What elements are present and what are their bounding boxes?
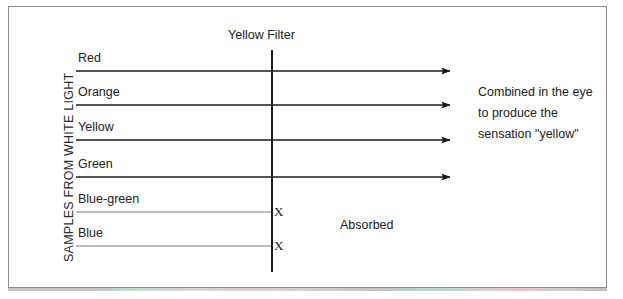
blocked-marker-blue: X [274, 239, 283, 252]
ray-label-red: Red [78, 51, 101, 65]
ray-label-yellow: Yellow [78, 120, 114, 134]
absorbed-label: Absorbed [340, 218, 394, 232]
blocked-marker-blue-green: X [274, 205, 283, 218]
figure-canvas: Yellow Filter SAMPLES FROM WHITE LIGHT R… [0, 0, 623, 299]
ray-label-blue: Blue [78, 226, 103, 240]
filter-title: Yellow Filter [228, 28, 295, 42]
outcome-note: Combined in the eye to produce the sensa… [478, 82, 600, 145]
vertical-axis-label: SAMPLES FROM WHITE LIGHT [62, 73, 76, 262]
ray-label-green: Green [78, 157, 113, 171]
yellow-filter-diagram [0, 0, 623, 299]
ray-label-blue-green: Blue-green [78, 192, 139, 206]
ray-label-orange: Orange [78, 85, 120, 99]
